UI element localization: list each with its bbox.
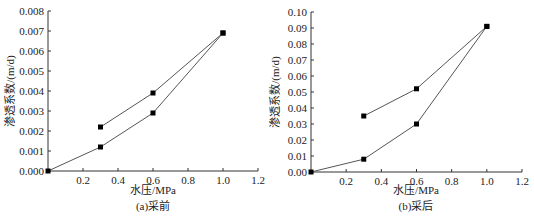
x-tick-label: 0.4 <box>374 175 388 187</box>
y-axis-title: 渗透系数/(m/d) <box>268 56 282 128</box>
y-tick-label: 0.10 <box>288 6 308 18</box>
y-tick-label: 0.05 <box>288 86 308 98</box>
y-tick-label: 0.000 <box>19 165 44 177</box>
data-point-marker <box>361 114 366 119</box>
y-tick-label: 0.001 <box>19 145 44 157</box>
axes: 0.0000.0010.0020.0030.0040.0050.0060.007… <box>19 5 265 186</box>
data-point-marker <box>151 91 156 96</box>
series-line-unloading <box>364 26 487 116</box>
data-point-marker <box>361 157 366 162</box>
y-tick-label: 0.01 <box>288 150 307 162</box>
y-tick-label: 0.00 <box>288 166 308 178</box>
data-point-marker <box>309 170 314 175</box>
x-tick-label: 1.2 <box>515 175 529 187</box>
data-point-marker <box>484 24 489 29</box>
data-point-marker <box>98 145 103 150</box>
y-tick-label: 0.03 <box>288 118 308 130</box>
data-point-marker <box>98 125 103 130</box>
series-line-loading <box>48 33 223 171</box>
chart-panel-a-before-mining: 0.0000.0010.0020.0030.0040.0050.0060.007… <box>3 5 265 213</box>
y-tick-label: 0.04 <box>288 102 308 114</box>
data-point-marker <box>414 86 419 91</box>
y-tick-label: 0.003 <box>19 105 44 117</box>
y-tick-label: 0.002 <box>19 125 44 137</box>
x-axis-title: 水压/MPa <box>130 184 176 196</box>
chart-panel-b-after-mining: 0.000.010.020.030.040.050.060.070.080.09… <box>268 6 529 213</box>
data-point-marker <box>46 169 51 174</box>
y-tick-label: 0.08 <box>288 38 308 50</box>
y-tick-label: 0.07 <box>288 54 308 66</box>
y-tick-label: 0.005 <box>19 65 44 77</box>
y-axis-title: 渗透系数/(m/d) <box>3 55 17 127</box>
data-point-marker <box>414 122 419 127</box>
x-tick-label: 1.0 <box>216 174 230 186</box>
y-tick-label: 0.004 <box>19 85 44 97</box>
y-tick-label: 0.008 <box>19 5 44 17</box>
x-tick-label: 0.8 <box>445 175 459 187</box>
series-line-unloading <box>101 33 224 127</box>
x-tick-label: 0.8 <box>181 174 195 186</box>
axes: 0.000.010.020.030.040.050.060.070.080.09… <box>288 6 529 187</box>
data-series <box>46 31 226 174</box>
x-tick-label: 1.2 <box>251 174 265 186</box>
x-tick-label: 0.2 <box>76 174 90 186</box>
permeability-charts: 0.0000.0010.0020.0030.0040.0050.0060.007… <box>0 0 534 223</box>
y-tick-label: 0.006 <box>19 45 44 57</box>
data-point-marker <box>151 111 156 116</box>
y-tick-label: 0.02 <box>288 134 307 146</box>
x-tick-label: 1.0 <box>480 175 494 187</box>
y-tick-label: 0.09 <box>288 22 308 34</box>
series-line-loading <box>311 26 487 172</box>
panel-caption: (a)采前 <box>136 199 170 213</box>
x-tick-label: 0.2 <box>339 175 353 187</box>
data-point-marker <box>221 31 226 36</box>
y-tick-label: 0.06 <box>288 70 308 82</box>
x-tick-label: 0.4 <box>111 174 125 186</box>
panel-caption: (b)采后 <box>399 200 434 213</box>
y-tick-label: 0.007 <box>19 25 44 37</box>
x-axis-title: 水压/MPa <box>393 184 439 196</box>
data-series <box>309 24 490 175</box>
